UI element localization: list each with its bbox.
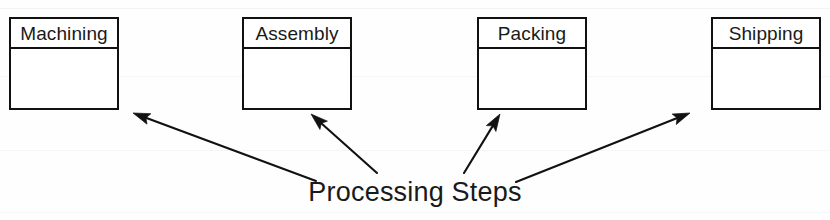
arrow-to-assembly-shaft xyxy=(321,123,377,173)
arrow-to-packing-shaft xyxy=(464,125,493,173)
arrow-to-shipping-shaft xyxy=(516,118,678,182)
arrow-to-machining-shaft xyxy=(145,118,316,181)
diagram-canvas: Machining Assembly Packing Shipping Proc… xyxy=(0,0,830,220)
arrow-to-packing-head xyxy=(486,114,500,131)
diagram-caption: Processing Steps xyxy=(0,176,830,208)
